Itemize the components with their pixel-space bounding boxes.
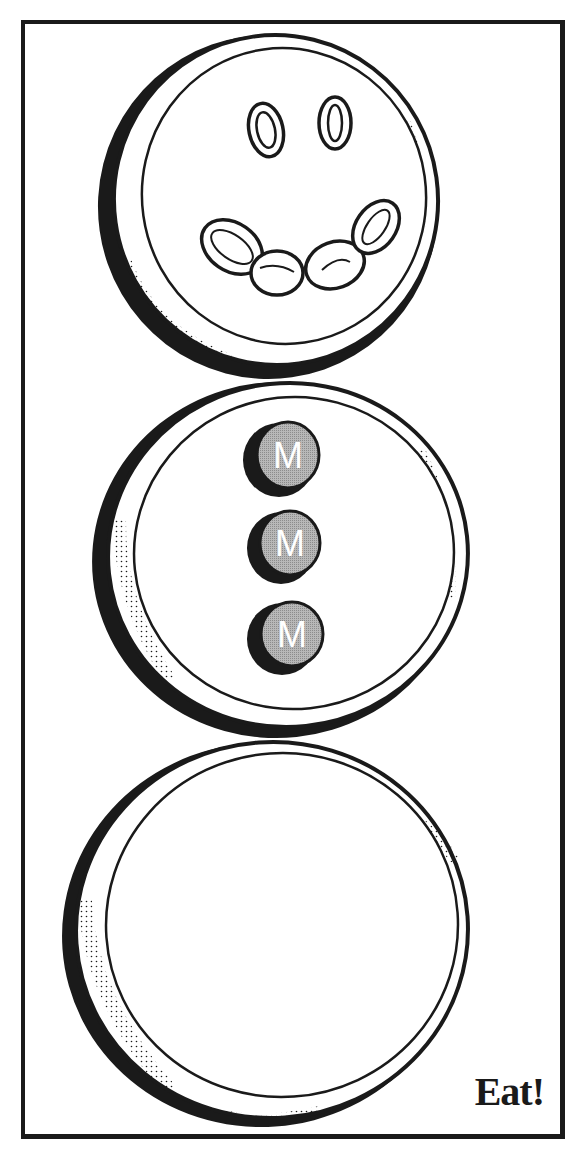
head-cookie — [76, 13, 461, 401]
svg-text:M: M — [277, 614, 307, 655]
caption-text: Eat! — [475, 1068, 544, 1115]
snowman-cookies-illustration: M M M — [0, 0, 578, 1159]
svg-text:M: M — [275, 523, 305, 564]
svg-text:M: M — [273, 435, 303, 476]
body-cookie: M M M — [74, 364, 485, 757]
base-cookie — [49, 729, 481, 1141]
